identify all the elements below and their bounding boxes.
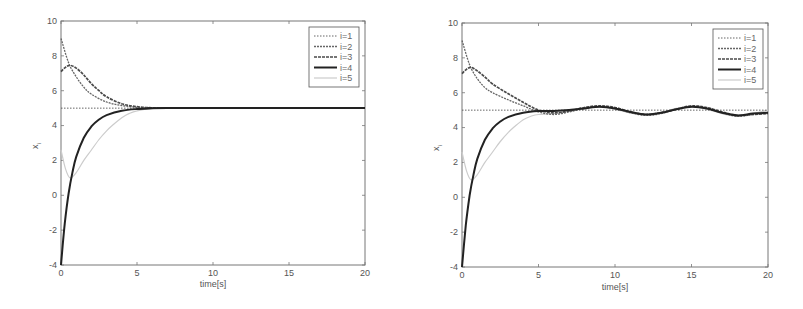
- y-tick-label: 0: [453, 192, 458, 202]
- x-ticks: 0 5 10 15 20: [58, 268, 370, 278]
- y-axis-label: xi: [431, 145, 443, 151]
- y-tick-label: -4: [49, 260, 57, 270]
- legend: i=1i=2i=3i=4i=5: [713, 29, 763, 89]
- legend: i=1i=2i=3i=4i=5: [309, 27, 359, 87]
- svg-text:xi: xi: [431, 145, 443, 151]
- y-tick-label: -2: [450, 227, 458, 237]
- legend-label: i=4: [340, 63, 352, 73]
- x-axis-label: time[s]: [602, 282, 629, 292]
- legend-label: i=5: [340, 73, 352, 83]
- y-tick-label: 4: [52, 120, 57, 130]
- x-tick-label: 5: [536, 270, 541, 280]
- y-tick-label: 0: [52, 190, 57, 200]
- x-tick-label: 10: [610, 270, 620, 280]
- y-tick-label: 2: [453, 157, 458, 167]
- svg-text:xi: xi: [30, 143, 42, 149]
- plot-right: 0 5 10 15 20 -4 -2 0 2 4 6 8 10 time[s] …: [431, 18, 773, 292]
- x-tick-label: 0: [58, 268, 63, 278]
- y-tick-label: 10: [47, 16, 57, 26]
- legend-label: i=4: [744, 65, 756, 75]
- x-tick-label: 15: [284, 268, 294, 278]
- y-tick-label: 10: [448, 18, 458, 28]
- legend-label: i=3: [744, 54, 756, 64]
- y-tick-label: 2: [52, 155, 57, 165]
- x-tick-label: 15: [686, 270, 696, 280]
- y-tick-label: -4: [450, 262, 458, 272]
- x-tick-label: 0: [459, 270, 464, 280]
- y-tick-label: 6: [52, 86, 57, 96]
- legend-label: i=1: [340, 31, 352, 41]
- x-tick-label: 20: [360, 268, 370, 278]
- y-tick-label: 4: [453, 122, 458, 132]
- y-tick-label: 8: [453, 53, 458, 63]
- x-ticks: 0 5 10 15 20: [459, 270, 773, 280]
- legend-label: i=3: [340, 52, 352, 62]
- legend-label: i=2: [340, 42, 352, 52]
- x-tick-label: 5: [134, 268, 139, 278]
- x-axis-label: time[s]: [200, 279, 227, 289]
- x-tick-label: 20: [763, 270, 773, 280]
- figure: 0 5 10 15 20 -4 -2 0 2 4 6 8 10 time[s] …: [0, 0, 803, 309]
- legend-label: i=1: [744, 33, 756, 43]
- legend-label: i=2: [744, 44, 756, 54]
- legend-label: i=5: [744, 75, 756, 85]
- y-tick-label: 8: [52, 51, 57, 61]
- x-tick-label: 10: [208, 268, 218, 278]
- y-ticks: -4 -2 0 2 4 6 8 10: [448, 18, 458, 272]
- plot-left: 0 5 10 15 20 -4 -2 0 2 4 6 8 10 time[s] …: [30, 16, 370, 289]
- y-tick-label: 6: [453, 88, 458, 98]
- y-axis-label: xi: [30, 143, 42, 149]
- y-ticks: -4 -2 0 2 4 6 8 10: [47, 16, 57, 270]
- y-tick-label: -2: [49, 225, 57, 235]
